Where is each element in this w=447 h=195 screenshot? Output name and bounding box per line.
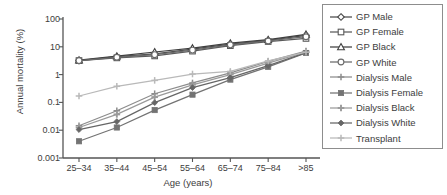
data-point-marker [338, 120, 344, 126]
legend-marker-icon [328, 101, 354, 115]
data-point-marker [114, 119, 120, 125]
data-point-marker [338, 135, 345, 142]
legend-marker-icon [328, 40, 354, 54]
legend-item-gp-female[interactable]: GP Female [323, 24, 442, 39]
legend-item-label: GP Female [354, 26, 404, 37]
legend-item-label: Dialysis Female [354, 87, 423, 98]
data-point-marker [338, 104, 345, 111]
data-point-marker [76, 93, 83, 100]
legend-marker-icon [328, 86, 354, 100]
data-point-marker [190, 47, 196, 53]
data-point-marker [152, 100, 158, 106]
chart-figure: Annual mortality (%) 1001010.10.010.001 … [0, 0, 447, 195]
legend-item-dialysis-white[interactable]: Dialysis White [323, 115, 442, 130]
series-dialysis-white [76, 50, 309, 133]
data-point-marker [338, 13, 345, 20]
legend-marker-icon [328, 10, 354, 24]
legend-item-gp-white[interactable]: GP White [323, 55, 442, 70]
data-point-marker [76, 58, 82, 64]
legend-item-label: Transplant [354, 133, 401, 144]
data-point-marker [227, 42, 233, 48]
data-point-marker [338, 90, 343, 95]
legend-item-dialysis-female[interactable]: Dialysis Female [323, 85, 442, 100]
data-point-marker [151, 77, 158, 84]
legend-item-label: GP White [354, 57, 396, 68]
series-dialysis-female [76, 50, 308, 143]
data-point-marker [338, 74, 345, 81]
data-point-marker [76, 139, 81, 144]
data-point-marker [303, 34, 309, 40]
legend-item-dialysis-black[interactable]: Dialysis Black [323, 100, 442, 115]
data-point-marker [114, 54, 120, 60]
legend-item-label: GP Black [354, 41, 395, 52]
legend-marker-icon [328, 55, 354, 69]
data-point-marker [265, 38, 271, 44]
legend-item-gp-male[interactable]: GP Male [323, 9, 442, 24]
series-line [79, 53, 306, 130]
legend-item-label: Dialysis White [354, 117, 416, 128]
data-point-marker [338, 59, 344, 65]
legend-item-label: GP Male [354, 11, 393, 22]
data-point-marker [152, 52, 158, 58]
data-point-marker [190, 92, 195, 97]
data-point-marker [189, 71, 196, 78]
legend-item-gp-black[interactable]: GP Black [323, 39, 442, 54]
legend-item-dialysis-male[interactable]: Dialysis Male [323, 70, 442, 85]
legend-marker-icon [328, 25, 354, 39]
legend-item-transplant[interactable]: Transplant [323, 131, 442, 146]
legend-marker-icon [328, 116, 354, 130]
data-point-marker [338, 29, 344, 35]
legend-marker-icon [328, 131, 354, 145]
data-point-marker [114, 83, 121, 90]
legend-item-label: Dialysis Male [354, 72, 412, 83]
legend-item-label: Dialysis Black [354, 102, 415, 113]
chart-legend: GP MaleGP FemaleGP BlackGP WhiteDialysis… [322, 4, 443, 149]
data-point-marker [152, 107, 157, 112]
data-point-marker [114, 125, 119, 130]
data-series-group [76, 31, 310, 144]
legend-marker-icon [328, 70, 354, 84]
